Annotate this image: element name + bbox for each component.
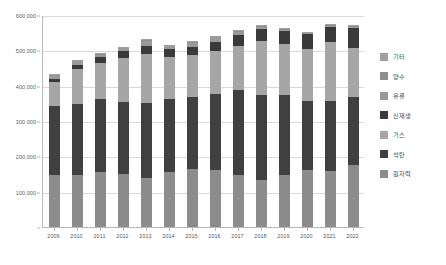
bar-segment[interactable]	[164, 46, 176, 49]
bar-segment[interactable]	[72, 61, 84, 64]
bar-segment[interactable]	[279, 95, 291, 175]
bar-group[interactable]	[210, 15, 222, 227]
bar-segment[interactable]	[187, 43, 199, 47]
bar-segment[interactable]	[118, 102, 130, 174]
bar-segment[interactable]	[256, 95, 268, 179]
bar-segment[interactable]	[302, 32, 314, 33]
legend-item[interactable]: 석탄	[380, 145, 442, 165]
bar-segment[interactable]	[325, 171, 337, 227]
bar-segment[interactable]	[302, 101, 314, 170]
bar-segment[interactable]	[164, 99, 176, 172]
bar-segment[interactable]	[279, 175, 291, 227]
bar-segment[interactable]	[348, 26, 360, 27]
bar-segment[interactable]	[72, 65, 84, 70]
bar-segment[interactable]	[141, 54, 153, 103]
bar-segment[interactable]	[256, 180, 268, 227]
bar-segment[interactable]	[210, 170, 222, 227]
bar-segment[interactable]	[141, 103, 153, 178]
bar-segment[interactable]	[233, 175, 245, 227]
bar-segment[interactable]	[210, 42, 222, 51]
bar-segment[interactable]	[302, 32, 314, 33]
bar-segment[interactable]	[49, 175, 61, 227]
bar-segment[interactable]	[348, 165, 360, 227]
bar-segment[interactable]	[49, 82, 61, 107]
bar-segment[interactable]	[72, 69, 84, 104]
bar-segment[interactable]	[325, 101, 337, 171]
bar-segment[interactable]	[302, 34, 314, 49]
bar-segment[interactable]	[187, 97, 199, 169]
bar-segment[interactable]	[279, 28, 291, 29]
bar-group[interactable]	[233, 15, 245, 227]
bar-group[interactable]	[256, 15, 268, 227]
bar-group[interactable]	[325, 15, 337, 227]
legend-item[interactable]: 원자력	[380, 164, 442, 184]
bar-segment[interactable]	[141, 46, 153, 53]
bar-segment[interactable]	[279, 44, 291, 95]
bar-segment[interactable]	[95, 53, 107, 54]
bar-segment[interactable]	[302, 170, 314, 227]
bar-segment[interactable]	[49, 106, 61, 174]
legend-item[interactable]: 유류	[380, 86, 442, 106]
bar-segment[interactable]	[233, 30, 245, 31]
bar-segment[interactable]	[210, 36, 222, 37]
bar-group[interactable]	[348, 15, 360, 227]
bar-segment[interactable]	[72, 175, 84, 228]
bar-group[interactable]	[95, 15, 107, 227]
bar-group[interactable]	[302, 15, 314, 227]
legend-item[interactable]: 가스	[380, 125, 442, 145]
bar-segment[interactable]	[233, 35, 245, 46]
legend-item[interactable]: 양수	[380, 67, 442, 87]
bar-segment[interactable]	[118, 48, 130, 51]
bar-segment[interactable]	[233, 30, 245, 32]
legend-item[interactable]: 신재생	[380, 106, 442, 126]
bar-segment[interactable]	[233, 32, 245, 35]
bar-segment[interactable]	[302, 33, 314, 34]
bar-segment[interactable]	[49, 75, 61, 79]
bar-segment[interactable]	[348, 97, 360, 165]
bar-segment[interactable]	[164, 45, 176, 46]
bar-segment[interactable]	[348, 48, 360, 96]
legend-item[interactable]: 기타	[380, 47, 442, 67]
bar-segment[interactable]	[302, 49, 314, 101]
bar-segment[interactable]	[95, 172, 107, 227]
bar-segment[interactable]	[348, 27, 360, 28]
bar-segment[interactable]	[256, 25, 268, 26]
bar-segment[interactable]	[256, 27, 268, 29]
bar-segment[interactable]	[187, 55, 199, 97]
bar-segment[interactable]	[49, 74, 61, 75]
bar-segment[interactable]	[256, 29, 268, 42]
bar-segment[interactable]	[164, 57, 176, 99]
bar-segment[interactable]	[348, 25, 360, 26]
bar-segment[interactable]	[256, 41, 268, 95]
bar-segment[interactable]	[164, 172, 176, 227]
bar-segment[interactable]	[118, 174, 130, 227]
bar-segment[interactable]	[256, 25, 268, 26]
bar-segment[interactable]	[210, 37, 222, 42]
bar-segment[interactable]	[210, 94, 222, 170]
bar-segment[interactable]	[279, 31, 291, 44]
bar-segment[interactable]	[141, 178, 153, 227]
bar-segment[interactable]	[279, 29, 291, 30]
bar-segment[interactable]	[164, 49, 176, 57]
bar-segment[interactable]	[279, 30, 291, 31]
bar-group[interactable]	[187, 15, 199, 227]
bar-segment[interactable]	[210, 51, 222, 94]
bar-group[interactable]	[72, 15, 84, 227]
bar-segment[interactable]	[49, 79, 61, 82]
bar-segment[interactable]	[95, 63, 107, 99]
bar-group[interactable]	[141, 15, 153, 227]
bar-segment[interactable]	[325, 27, 337, 42]
bar-segment[interactable]	[325, 24, 337, 25]
bar-segment[interactable]	[118, 58, 130, 102]
bar-group[interactable]	[118, 15, 130, 227]
bar-segment[interactable]	[325, 42, 337, 101]
bar-segment[interactable]	[233, 90, 245, 174]
bar-segment[interactable]	[233, 46, 245, 91]
bar-segment[interactable]	[325, 26, 337, 27]
bar-segment[interactable]	[95, 99, 107, 172]
bar-group[interactable]	[164, 15, 176, 227]
bar-segment[interactable]	[325, 24, 337, 25]
bar-segment[interactable]	[72, 60, 84, 61]
bar-segment[interactable]	[72, 104, 84, 175]
bar-segment[interactable]	[141, 41, 153, 46]
